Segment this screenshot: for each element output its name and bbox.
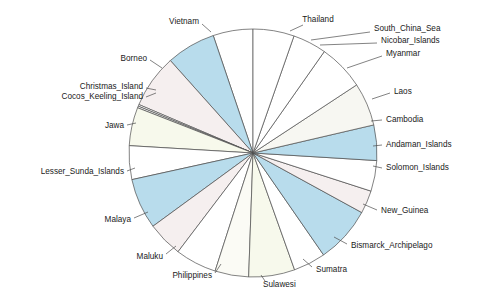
pie-chart-figure: ThailandSouth_China_SeaNicobar_IslandsMy… [0, 0, 487, 305]
slice-label-andaman-islands: Andaman_Islands [386, 140, 452, 149]
slice-label-south-china-sea: South_China_Sea [374, 24, 441, 33]
slice-label-sumatra: Sumatra [316, 265, 347, 274]
leader-line-laos [372, 93, 390, 99]
slice-label-nicobar-islands: Nicobar_Islands [381, 36, 440, 45]
slice-label-myanmar: Myanmar [386, 49, 420, 58]
slice-label-laos: Laos [394, 87, 412, 96]
leader-line-vietnam [202, 24, 211, 32]
slice-label-thailand: Thailand [302, 15, 334, 24]
slice-label-malaya: Malaya [105, 215, 132, 224]
leader-line-myanmar [347, 56, 382, 68]
slice-label-bismarck-archipelago: Bismarck_Archipelago [351, 241, 433, 250]
leader-line-new-guinea [363, 204, 377, 210]
slice-label-lesser-sunda-islands: Lesser_Sunda_Islands [41, 167, 124, 176]
leader-line-maluku [166, 246, 176, 254]
slice-label-maluku: Maluku [137, 252, 164, 261]
slice-label-cocos-keeling-island: Cocos_Keeling_Island [62, 92, 144, 101]
slice-label-jawa: Jawa [105, 121, 125, 130]
leader-line-thailand [290, 25, 303, 31]
slice-label-new-guinea: New_Guinea [381, 206, 429, 215]
leader-line-borneo [150, 60, 162, 68]
slice-label-borneo: Borneo [121, 54, 148, 63]
slice-label-philippines: Philippines [172, 271, 212, 280]
leader-line-south-china-sea [311, 32, 370, 40]
pie-chart-canvas: ThailandSouth_China_SeaNicobar_IslandsMy… [0, 0, 487, 305]
slice-label-christmas-island: Christmas_Island [80, 82, 144, 91]
slice-label-solomon-islands: Solomon_Islands [386, 163, 449, 172]
slice-label-cambodia: Cambodia [386, 115, 424, 124]
slice-label-sulawesi: Sulawesi [263, 280, 296, 289]
slice-label-vietnam: Vietnam [169, 17, 199, 26]
leader-line-nicobar-islands [320, 43, 377, 45]
